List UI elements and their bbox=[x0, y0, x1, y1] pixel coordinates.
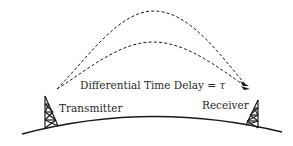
multipath-diagram: Differential Time Delay = τ Transmitter … bbox=[0, 0, 293, 146]
differential-delay-label: Differential Time Delay = τ bbox=[80, 80, 225, 91]
receiver-label: Receiver bbox=[202, 100, 249, 111]
earth-curve bbox=[22, 116, 282, 134]
tau-symbol: τ bbox=[220, 79, 226, 91]
arrowhead-icon bbox=[240, 81, 250, 90]
upper-path bbox=[57, 11, 245, 89]
transmitter-tower-icon bbox=[45, 96, 58, 128]
delay-label-text: Differential Time Delay = bbox=[80, 79, 220, 91]
transmitter-label: Transmitter bbox=[59, 103, 122, 114]
diagram-canvas bbox=[0, 0, 293, 146]
